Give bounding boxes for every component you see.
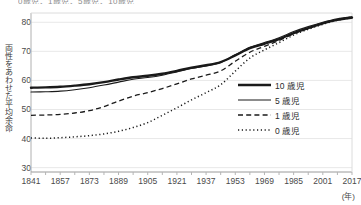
chart-legend: 10 歳児5 歳児1 歳児0 歳児	[238, 77, 322, 137]
legend-line-swatch	[238, 125, 271, 135]
legend-item-label: 5 歳児	[275, 94, 300, 106]
legend-item: 10 歳児	[238, 77, 322, 92]
legend-line-swatch	[238, 110, 271, 120]
legend-item: 1 歳児	[238, 107, 322, 122]
legend-item: 5 歳児	[238, 92, 322, 107]
legend-line-swatch	[238, 80, 271, 90]
legend-item-label: 10 歳児	[275, 79, 305, 91]
legend-item: 0 歳児	[238, 122, 322, 137]
legend-item-label: 1 歳児	[275, 109, 300, 121]
legend-line-swatch	[238, 95, 271, 105]
legend-item-label: 0 歳児	[275, 124, 300, 136]
